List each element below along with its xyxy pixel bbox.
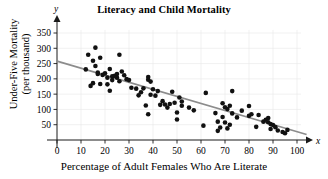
data-point: [108, 67, 113, 72]
data-point: [228, 122, 233, 127]
axis-ticks: [54, 33, 298, 144]
y-tick-label: 150: [37, 90, 52, 100]
data-point: [223, 120, 228, 125]
y-tick-label: 350: [37, 28, 52, 38]
data-point: [93, 64, 98, 69]
data-point: [230, 111, 235, 116]
data-point: [256, 113, 261, 118]
x-axis-label: Percentage of Adult Females Who Are Lite…: [0, 160, 328, 172]
x-tick-label: 90: [268, 146, 278, 156]
data-point: [141, 86, 146, 91]
data-point: [220, 101, 225, 106]
data-point: [247, 104, 252, 109]
data-point: [98, 55, 103, 60]
data-point: [105, 75, 110, 80]
data-point: [285, 128, 290, 133]
data-point: [266, 116, 271, 121]
x-axis-arrow-icon: [306, 137, 313, 144]
data-point: [129, 85, 134, 90]
x-tick-label: 70: [220, 146, 230, 156]
data-point: [216, 119, 221, 124]
data-point: [110, 78, 115, 83]
data-point: [93, 45, 98, 50]
y-axis-arrow-icon: [54, 15, 61, 22]
data-point: [134, 86, 139, 91]
data-point: [127, 78, 132, 83]
x-tick-label: 20: [100, 146, 110, 156]
data-point: [276, 128, 281, 133]
data-point: [117, 79, 122, 84]
data-point: [151, 87, 156, 92]
data-point: [201, 123, 206, 128]
data-point: [192, 108, 197, 113]
data-point: [117, 52, 122, 57]
data-point: [86, 52, 91, 57]
data-point: [213, 111, 218, 116]
x-tick-label: 80: [244, 146, 254, 156]
data-point: [153, 93, 158, 98]
data-point: [177, 95, 182, 100]
data-point: [230, 89, 235, 94]
plot-canvas: 0102030405060708090100501001502002503003…: [0, 0, 328, 179]
data-point: [254, 125, 259, 130]
x-tick-label: 0: [55, 146, 60, 156]
y-axis-label: Under-Five Mortality (per thousand): [8, 4, 32, 124]
data-point: [175, 117, 180, 122]
axis-variable-symbols: xy: [53, 4, 321, 146]
y-tick-label: 50: [42, 120, 52, 130]
data-point: [172, 100, 177, 105]
y-tick-label: 200: [37, 74, 52, 84]
data-point: [96, 72, 101, 77]
data-point: [180, 99, 185, 104]
data-point: [228, 103, 233, 108]
data-point: [235, 115, 240, 120]
data-point: [146, 112, 151, 117]
data-point: [122, 73, 127, 78]
data-point: [249, 112, 254, 117]
data-point: [84, 67, 89, 72]
x-tick-label: 30: [124, 146, 134, 156]
data-point: [170, 89, 175, 94]
y-tick-label: 250: [37, 59, 52, 69]
x-tick-label: 50: [172, 146, 182, 156]
data-point: [91, 59, 96, 64]
data-point: [156, 89, 161, 94]
data-point: [187, 105, 192, 110]
y-axis-label-line-1: Under-Five Mortality: [8, 4, 20, 124]
data-point: [139, 90, 144, 95]
data-point: [268, 127, 273, 132]
data-point: [108, 88, 113, 93]
data-point: [168, 102, 173, 107]
x-tick-label: 10: [76, 146, 86, 156]
data-point: [91, 81, 96, 86]
data-point: [98, 82, 103, 87]
x-tick-label: 60: [196, 146, 206, 156]
y-axis-label-line-2: (per thousand): [20, 4, 32, 124]
scatter-plot-figure: Literacy and Child Mortality 01020304050…: [0, 0, 328, 179]
data-point: [105, 82, 110, 87]
y-tick-label: 100: [37, 105, 52, 115]
x-tick-label: 100: [290, 146, 305, 156]
data-point: [144, 103, 149, 108]
data-point: [240, 108, 245, 113]
data-point: [218, 125, 223, 130]
y-tick-label: 300: [37, 44, 52, 54]
data-point: [175, 110, 180, 115]
x-tick-label: 40: [148, 146, 158, 156]
data-point: [204, 91, 209, 96]
data-point: [148, 79, 153, 84]
data-point: [180, 103, 185, 108]
y-axis-symbol: y: [53, 4, 59, 14]
data-points: [84, 45, 290, 135]
x-axis-symbol: x: [315, 136, 321, 146]
data-point: [103, 71, 108, 76]
data-point: [220, 115, 225, 120]
data-point: [148, 92, 153, 97]
